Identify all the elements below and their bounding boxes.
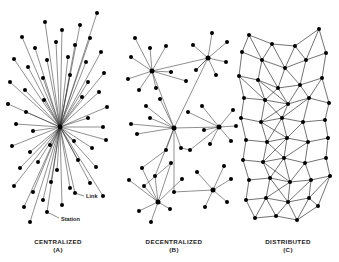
station-node[interactable] (298, 83, 302, 87)
station-node[interactable] (10, 144, 14, 148)
station-node[interactable] (12, 184, 16, 188)
hub-station[interactable] (150, 69, 155, 74)
station-node[interactable] (8, 80, 12, 84)
station-node[interactable] (241, 158, 245, 162)
station-node[interactable] (304, 58, 308, 62)
station-node[interactable] (6, 102, 10, 106)
station-node[interactable] (102, 71, 106, 75)
station-node[interactable] (28, 220, 32, 224)
station-node[interactable] (180, 177, 184, 181)
station-node[interactable] (323, 118, 327, 122)
station-node[interactable] (293, 44, 297, 48)
station-node[interactable] (224, 60, 228, 64)
station-node[interactable] (280, 116, 284, 120)
station-node[interactable] (317, 27, 321, 31)
station-node[interactable] (229, 177, 233, 181)
station-node[interactable] (66, 55, 70, 59)
station-node[interactable] (129, 122, 133, 126)
station-node[interactable] (324, 51, 328, 55)
station-node[interactable] (282, 156, 286, 160)
station-node[interactable] (286, 200, 290, 204)
station-node[interactable] (84, 60, 88, 64)
station-node[interactable] (164, 148, 168, 152)
station-node[interactable] (200, 104, 204, 108)
hub-station[interactable] (217, 125, 222, 130)
station-node[interactable] (225, 40, 229, 44)
station-node[interactable] (76, 158, 80, 162)
station-node[interactable] (172, 190, 176, 194)
station-node[interactable] (24, 110, 28, 114)
station-node[interactable] (23, 88, 27, 92)
station-node[interactable] (142, 184, 146, 188)
station-node[interactable] (60, 28, 64, 32)
station-node[interactable] (31, 129, 35, 133)
station-node[interactable] (144, 104, 148, 108)
station-node[interactable] (328, 174, 332, 178)
station-node[interactable] (307, 96, 311, 100)
station-node[interactable] (42, 98, 46, 102)
station-node[interactable] (148, 46, 152, 50)
station-node[interactable] (95, 11, 99, 15)
station-node[interactable] (184, 79, 188, 83)
station-node[interactable] (86, 116, 90, 120)
station-node[interactable] (242, 96, 246, 100)
station-node[interactable] (68, 73, 72, 77)
station-node[interactable] (191, 43, 195, 47)
hub-station[interactable] (58, 125, 63, 130)
station-node[interactable] (263, 98, 267, 102)
station-node[interactable] (195, 170, 199, 174)
station-node[interactable] (73, 43, 77, 47)
station-node[interactable] (31, 190, 35, 194)
station-node[interactable] (264, 196, 268, 200)
station-node[interactable] (101, 194, 105, 198)
station-node[interactable] (188, 148, 192, 152)
station-node[interactable] (90, 146, 94, 150)
station-node[interactable] (301, 120, 305, 124)
station-node[interactable] (286, 102, 290, 106)
station-node[interactable] (97, 90, 101, 94)
station-node[interactable] (202, 128, 206, 132)
station-node[interactable] (307, 196, 311, 200)
station-node[interactable] (164, 44, 168, 48)
station-node[interactable] (101, 125, 105, 129)
station-node[interactable] (88, 181, 92, 185)
station-node[interactable] (260, 58, 264, 62)
hub-station[interactable] (172, 126, 177, 131)
station-node[interactable] (168, 207, 172, 211)
station-node[interactable] (274, 214, 278, 218)
station-node[interactable] (270, 42, 274, 46)
station-node[interactable] (137, 88, 141, 92)
station-node[interactable] (309, 178, 313, 182)
station-node[interactable] (253, 216, 257, 220)
station-node[interactable] (306, 140, 310, 144)
station-node[interactable] (324, 156, 328, 160)
station-node[interactable] (135, 132, 139, 136)
station-node[interactable] (154, 86, 158, 90)
station-node[interactable] (303, 161, 307, 165)
station-node[interactable] (244, 198, 248, 202)
station-node[interactable] (149, 220, 153, 224)
station-node[interactable] (259, 120, 263, 124)
station-node[interactable] (169, 70, 173, 74)
station-node[interactable] (327, 101, 331, 105)
station-node[interactable] (20, 35, 24, 39)
station-node[interactable] (54, 40, 58, 44)
station-node[interactable] (234, 124, 238, 128)
station-node[interactable] (231, 108, 235, 112)
station-node[interactable] (12, 57, 16, 61)
station-node[interactable] (33, 46, 37, 50)
station-node[interactable] (268, 176, 272, 180)
hub-station[interactable] (211, 188, 216, 193)
station-node[interactable] (60, 203, 64, 207)
station-node[interactable] (247, 178, 251, 182)
station-node[interactable] (288, 180, 292, 184)
station-node[interactable] (320, 76, 324, 80)
station-node[interactable] (265, 140, 269, 144)
station-node[interactable] (240, 50, 244, 54)
station-node[interactable] (229, 139, 233, 143)
station-node[interactable] (261, 160, 265, 164)
station-node[interactable] (285, 136, 289, 140)
station-node[interactable] (41, 198, 45, 202)
station-node[interactable] (203, 205, 207, 209)
station-node[interactable] (26, 65, 30, 69)
